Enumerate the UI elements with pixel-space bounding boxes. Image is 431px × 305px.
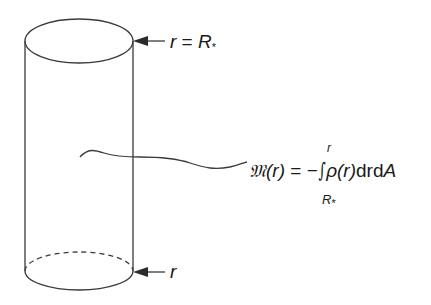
mass-equation: 𝔐(r) = −∫ρ(r)drdA [249,160,396,180]
equation-area: A [384,160,397,181]
cylinder-top-ellipse [25,19,133,63]
integral-lower-limit: R* [322,193,336,209]
equation-rho-arg: (r) [337,160,356,181]
label-inner-radius: r [170,262,176,281]
integral-sign-icon: ∫ [318,160,325,180]
lower-limit-star: * [331,197,335,209]
arrow-top [133,36,165,46]
equation-differentials: drd [356,160,383,181]
label-R: R [198,31,212,52]
label-star: * [212,41,216,53]
lower-limit-R: R [322,192,331,207]
arrow-bottom [133,267,165,277]
equation-lhs-arg: (r) [266,160,285,181]
label-outer-radius: r = R* [170,32,216,53]
cylinder-bottom-back-dashed [25,252,133,271]
equation-equals: = − [285,160,318,181]
cylinder-diagram: r = R* r 𝔐(r) = −∫ρ(r)drdA r R* [0,0,431,305]
integral-upper-limit: r [327,142,331,154]
equation-mass-symbol: 𝔐 [249,160,266,181]
cylinder-bottom-front [25,271,133,290]
equation-rho: ρ [326,160,337,181]
leader-curve [80,150,247,168]
label-equals: = [176,31,198,52]
